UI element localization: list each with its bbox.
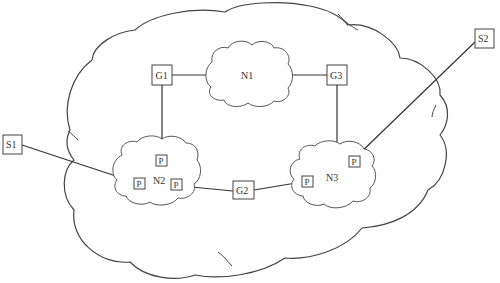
gateway-label-g2: G2 [236, 185, 248, 196]
port-label: P [174, 180, 179, 190]
gateway-g3[interactable]: G3 [327, 65, 347, 85]
port-label: P [352, 157, 357, 167]
network-label-n1: N1 [241, 70, 253, 81]
station-s1[interactable]: S1 [3, 135, 22, 154]
port-label: P [137, 179, 142, 189]
port-label: P [305, 177, 310, 187]
gateway-g2[interactable]: G2 [233, 181, 254, 199]
station-label-s1: S1 [6, 139, 17, 150]
port-n2-top[interactable]: P [156, 155, 167, 166]
network-label-n3: N3 [326, 172, 338, 183]
gateway-label-g1: G1 [156, 70, 168, 81]
port-label: P [159, 156, 164, 166]
gateway-g1[interactable]: G1 [152, 65, 172, 85]
network-label-n2: N2 [153, 175, 165, 186]
network-cloud-n2[interactable]: N2 [113, 136, 201, 205]
port-n3-top[interactable]: P [349, 156, 360, 167]
station-label-s2: S2 [478, 33, 489, 44]
network-cloud-n3[interactable]: N3 [290, 141, 375, 208]
port-n3-left[interactable]: P [302, 176, 313, 187]
port-n2-right[interactable]: P [171, 179, 182, 190]
network-diagram: N1 N2 N3 G1 G3 G2 S1 S2 P P P [0, 0, 500, 283]
port-n2-left[interactable]: P [134, 178, 145, 189]
gateway-label-g3: G3 [330, 70, 342, 81]
network-cloud-n1[interactable]: N1 [206, 41, 293, 106]
station-s2[interactable]: S2 [475, 29, 494, 48]
